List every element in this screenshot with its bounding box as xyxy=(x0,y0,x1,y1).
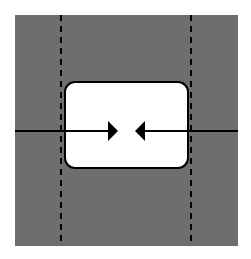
white-rounded-box xyxy=(65,82,188,168)
diagram-canvas xyxy=(0,0,251,259)
